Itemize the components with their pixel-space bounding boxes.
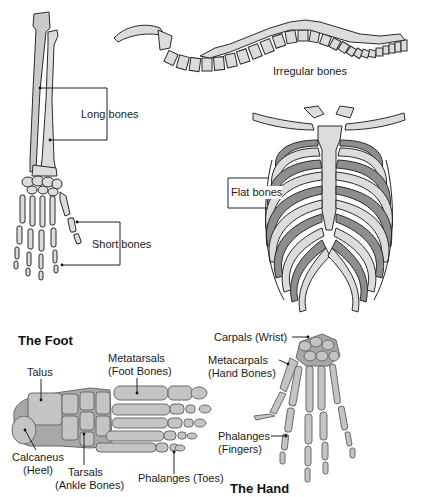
label-metatarsals-2: (Foot Bones)	[108, 365, 172, 378]
label-irregular-bones: Irregular bones	[273, 65, 347, 78]
foot-illustration	[12, 386, 211, 452]
bone-illustrations	[0, 0, 426, 497]
label-phalanges-toes: Phalanges (Toes)	[138, 472, 224, 485]
label-talus: Talus	[27, 366, 53, 379]
hand-title: The Hand	[230, 481, 289, 496]
label-carpals: Carpals (Wrist)	[214, 331, 287, 344]
hand-lower-illustration	[254, 334, 355, 482]
forearm-illustration	[30, 12, 58, 176]
label-metacarpals-2: (Hand Bones)	[208, 367, 276, 380]
hand-upper-illustration	[14, 176, 82, 280]
label-metatarsals-1: Metatarsals	[108, 352, 165, 365]
label-metacarpals-1: Metacarpals	[208, 354, 268, 367]
label-calcaneus-1: Calcaneus	[12, 451, 64, 464]
label-long-bones: Long bones	[81, 108, 139, 121]
spine-illustration	[114, 20, 407, 72]
metacarpals-leader	[279, 360, 288, 364]
foot-title: The Foot	[18, 333, 73, 348]
ribcage-illustration	[253, 106, 405, 312]
label-phalanges-fingers-1: Phalanges	[218, 430, 270, 443]
label-calcaneus-2: (Heel)	[23, 464, 53, 477]
label-phalanges-fingers-2: (Fingers)	[218, 443, 262, 456]
label-tarsals-1: Tarsals	[68, 466, 103, 479]
label-flat-bones: Flat bones	[231, 186, 282, 199]
label-short-bones: Short bones	[92, 238, 151, 251]
label-tarsals-2: (Ankle Bones)	[55, 479, 124, 492]
